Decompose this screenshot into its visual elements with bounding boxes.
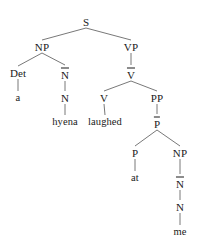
tree-edge bbox=[104, 81, 131, 91]
tree-node-pbar: P bbox=[154, 117, 160, 130]
tree-edge bbox=[18, 53, 42, 66]
tree-terminal-at: at bbox=[131, 173, 139, 184]
tree-node-det: Det bbox=[10, 68, 26, 79]
tree-node-nbar1: N bbox=[61, 68, 69, 81]
tree-terminal-me: me bbox=[173, 227, 186, 238]
tree-node-v: V bbox=[100, 93, 108, 104]
syntax-tree-diagram: SNPVPDetNVaNVPPhyenalaughedPPNPatNNme bbox=[0, 0, 200, 245]
tree-terminal-hyena: hyena bbox=[52, 117, 78, 128]
tree-terminal-a: a bbox=[16, 93, 21, 104]
tree-terminal-laughed: laughed bbox=[88, 117, 122, 128]
tree-node-nbar2: N bbox=[176, 177, 184, 190]
tree-node-n1: N bbox=[61, 93, 69, 104]
tree-edge bbox=[157, 130, 180, 146]
tree-edge bbox=[86, 28, 131, 40]
tree-node-pp: PP bbox=[151, 93, 163, 104]
tree-edge bbox=[104, 104, 105, 115]
tree-edge bbox=[42, 53, 65, 65]
tree-node-np2: NP bbox=[173, 148, 187, 159]
tree-node-np1: NP bbox=[35, 42, 49, 53]
tree-node-vbar: V bbox=[127, 68, 135, 81]
tree-node-s: S bbox=[83, 17, 89, 28]
tree-edge bbox=[135, 130, 157, 146]
tree-node-n2: N bbox=[176, 202, 184, 213]
tree-node-p: P bbox=[132, 148, 138, 159]
tree-edge bbox=[131, 81, 157, 91]
tree-node-vp: VP bbox=[124, 42, 138, 53]
tree-edge bbox=[42, 28, 86, 40]
